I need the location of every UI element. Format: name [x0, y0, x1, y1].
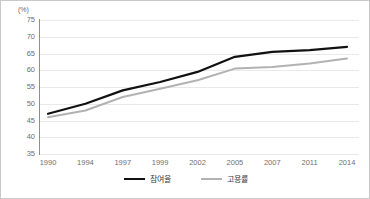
legend-line-swatch-icon [201, 178, 222, 180]
legend-item-participation[interactable]: 참여율 [124, 173, 171, 184]
x-axis-tick-2005: 2005 [215, 159, 255, 167]
y-axis-tick-55: 55 [5, 83, 35, 91]
legend-item-employment[interactable]: 고용률 [201, 173, 248, 184]
x-axis-tick-1990: 1990 [28, 159, 68, 167]
x-axis-tick-1997: 1997 [103, 159, 143, 167]
chart-figure: (%) 757065605550454035 19901994199719992… [0, 0, 370, 199]
y-axis-tick-40: 40 [5, 133, 35, 141]
gridline [40, 154, 359, 155]
chart-legend: 참여율고용률 [1, 173, 370, 184]
y-axis-tick-65: 65 [5, 50, 35, 58]
y-axis-tick-75: 75 [5, 16, 35, 24]
x-axis-tick-2011: 2011 [290, 159, 330, 167]
y-axis-tick-60: 60 [5, 66, 35, 74]
x-axis-tick-1999: 1999 [140, 159, 180, 167]
y-axis-unit-label: (%) [18, 6, 29, 13]
legend-label: 고용률 [227, 173, 248, 184]
y-axis-tick-45: 45 [5, 117, 35, 125]
legend-line-swatch-icon [124, 178, 145, 180]
x-axis-tick-2007: 2007 [252, 159, 292, 167]
y-axis-tick-50: 50 [5, 100, 35, 108]
x-axis-tick-2014: 2014 [327, 159, 367, 167]
y-axis-tick-35: 35 [5, 150, 35, 158]
series-line-employment [48, 59, 347, 118]
legend-label: 참여율 [150, 173, 171, 184]
x-axis-tick-2002: 2002 [178, 159, 218, 167]
x-axis-tick-1994: 1994 [65, 159, 105, 167]
plot-area [40, 20, 359, 154]
y-axis-tick-70: 70 [5, 33, 35, 41]
series-container [40, 20, 359, 154]
